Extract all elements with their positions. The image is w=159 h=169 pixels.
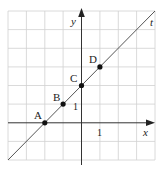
y-tick-label: 1 <box>73 101 78 112</box>
point-b-label: B <box>53 91 60 103</box>
point-d <box>97 64 102 69</box>
y-axis-arrow-icon <box>78 8 85 17</box>
coordinate-plane: A B C D 1 1 x y t <box>0 0 159 169</box>
point-c <box>79 83 84 88</box>
line-t-label: t <box>150 16 154 28</box>
point-b <box>61 102 66 107</box>
axes <box>8 14 150 165</box>
point-d-label: D <box>89 53 97 65</box>
x-tick-label: 1 <box>97 127 102 138</box>
point-a-label: A <box>34 109 42 121</box>
point-c-label: C <box>70 72 77 84</box>
x-axis-label: x <box>142 126 148 138</box>
y-axis-label: y <box>70 15 76 27</box>
point-a <box>42 120 47 125</box>
